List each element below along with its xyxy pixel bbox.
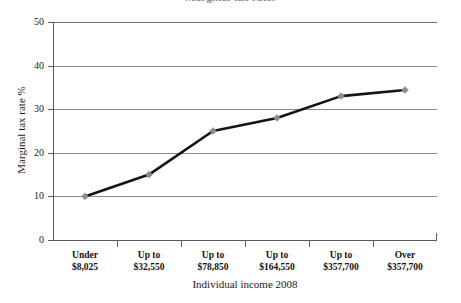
chart-figure: Marginal tax rates 50 40 30 20 10 0 Unde… [0, 0, 461, 303]
data-point-4 [338, 93, 345, 100]
data-series-layer [0, 0, 461, 303]
data-point-3 [274, 115, 281, 122]
series-markers [82, 87, 409, 200]
data-point-5 [402, 87, 409, 94]
data-point-0 [82, 193, 89, 200]
series-line [85, 90, 405, 196]
